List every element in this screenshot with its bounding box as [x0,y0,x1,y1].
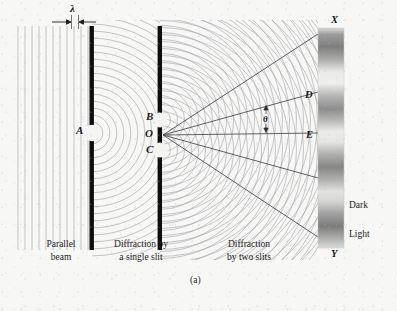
point-a-label: A [76,124,83,136]
slit-b-aperture [152,112,167,127]
caption-parallel-beam-line1: Parallel [28,238,94,251]
caption-two-slits-line1: Diffraction [203,238,295,251]
observation-screen [318,28,344,248]
caption-single-slit: Diffraction by a single slit [95,238,187,264]
barriers-and-screen-layer [0,0,397,311]
caption-single-slit-line2: a single slit [95,251,187,264]
screen-bottom-label: Y [331,248,337,260]
single-slit-barrier-upper [90,26,94,126]
figure-stage: λ A B O C θ X Y D E Dark Light Parallel … [0,0,397,311]
angle-theta-label: θ [263,114,268,124]
slit-b-label: B [146,110,153,122]
panel-label: (a) [190,275,201,286]
dark-band-label: Dark [349,200,368,211]
diffraction-figure: λ A B O C θ X Y D E Dark Light Parallel … [0,0,397,311]
wavelength-label: λ [70,2,75,14]
caption-two-slits: Diffraction by two slits [203,238,295,264]
caption-parallel-beam: Parallel beam [28,238,94,264]
screen-top-label: X [331,14,338,26]
slit-c-aperture [152,142,167,157]
double-slit-barrier-middle [158,127,162,143]
fringe-d-label: D [305,89,313,101]
caption-single-slit-line1: Diffraction by [95,238,187,251]
caption-two-slits-line2: by two slits [203,251,295,264]
slit-c-label: C [146,143,153,155]
wavelength-marker [52,15,96,29]
double-slit-barrier-upper [158,26,162,113]
single-slit-barrier-lower [90,140,94,250]
slit-a-aperture [84,125,100,141]
caption-parallel-beam-line2: beam [28,251,94,264]
point-o-label: O [145,127,153,139]
fringe-e-label: E [306,129,313,141]
light-band-label: Light [349,229,370,240]
double-slit-barrier-lower [158,157,162,250]
